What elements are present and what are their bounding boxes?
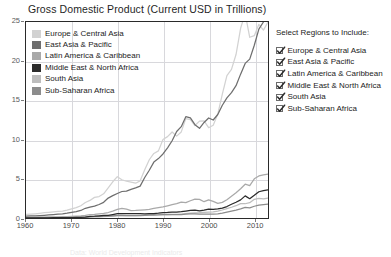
x-tick-mark	[163, 219, 164, 222]
check-icon	[276, 92, 286, 102]
region-checkbox-label: South Asia	[288, 93, 326, 101]
x-tick-mark	[209, 219, 210, 222]
legend-label: Sub-Saharan Africa	[45, 87, 114, 95]
region-checkbox-row[interactable]: Sub-Saharan Africa	[276, 103, 388, 115]
region-checkbox-label: East Asia & Pacific	[288, 58, 355, 66]
y-tick-label: 5	[0, 174, 20, 183]
checkbox-5[interactable]	[276, 94, 283, 101]
plot-frame: Europe & Central AsiaEast Asia & Pacific…	[25, 21, 269, 219]
y-tick-label: 15	[0, 95, 20, 104]
legend-item: South Asia	[32, 74, 140, 85]
region-checkbox-list[interactable]: Europe & Central AsiaEast Asia & Pacific…	[276, 45, 388, 115]
legend-item: Sub-Saharan Africa	[32, 85, 140, 96]
legend-label: Latin America & Caribbean	[45, 52, 140, 60]
checkbox-4[interactable]	[276, 82, 283, 89]
x-tick-mark	[25, 219, 26, 222]
y-tick-mark	[21, 219, 24, 220]
legend-item: Latin America & Caribbean	[32, 51, 140, 62]
region-checkbox-label: Latin America & Caribbean	[288, 70, 383, 78]
region-checkbox-row[interactable]: Latin America & Caribbean	[276, 68, 388, 80]
page-title: Gross Domestic Product (Current USD in T…	[28, 3, 266, 15]
x-tick-mark	[71, 219, 72, 222]
x-tick-mark	[117, 219, 118, 222]
checkbox-2[interactable]	[276, 59, 283, 66]
legend-swatch	[32, 75, 41, 83]
x-tick-label: 2010	[235, 221, 275, 230]
check-icon	[276, 81, 286, 91]
panel-title: Select Regions to Include:	[276, 28, 388, 37]
legend-label: Europe & Central Asia	[45, 30, 124, 38]
checkbox-6[interactable]	[276, 105, 283, 112]
x-tick-label: 2000	[189, 221, 229, 230]
check-icon	[276, 104, 286, 114]
legend-swatch	[32, 64, 41, 72]
checkbox-1[interactable]	[276, 47, 283, 54]
x-tick-label: 1980	[97, 221, 137, 230]
chart-caption: Data: World Development Indicators	[70, 249, 320, 257]
region-checkbox-row[interactable]: Europe & Central Asia	[276, 45, 388, 57]
region-checkbox-label: Sub-Saharan Africa	[288, 105, 357, 113]
y-tick-label: 20	[0, 56, 20, 65]
legend-swatch	[32, 52, 41, 60]
legend-label: South Asia	[45, 75, 83, 83]
y-tick-mark	[21, 21, 24, 22]
x-tick-label: 1990	[143, 221, 183, 230]
check-icon	[276, 57, 286, 67]
series-line	[26, 198, 268, 218]
legend-item: Europe & Central Asia	[32, 28, 140, 39]
chart-legend: Europe & Central AsiaEast Asia & Pacific…	[32, 28, 140, 96]
y-tick-label: 10	[0, 135, 20, 144]
region-checkbox-label: Middle East & North Africa	[288, 82, 381, 90]
y-tick-mark	[21, 61, 24, 62]
x-tick-label: 1970	[51, 221, 91, 230]
region-checkbox-row[interactable]: Middle East & North Africa	[276, 80, 388, 92]
chart-plot-area: Europe & Central AsiaEast Asia & Pacific…	[25, 21, 269, 219]
y-tick-mark	[21, 140, 24, 141]
region-filter-panel: Select Regions to Include: Europe & Cent…	[276, 28, 388, 115]
legend-label: East Asia & Pacific	[45, 41, 112, 49]
legend-swatch	[32, 30, 41, 38]
region-checkbox-label: Europe & Central Asia	[288, 47, 367, 55]
region-checkbox-row[interactable]: East Asia & Pacific	[276, 57, 388, 69]
checkbox-3[interactable]	[276, 70, 283, 77]
region-checkbox-row[interactable]: South Asia	[276, 91, 388, 103]
x-tick-label: 1960	[5, 221, 45, 230]
x-tick-mark	[255, 219, 256, 222]
legend-item: Middle East & North Africa	[32, 62, 140, 73]
y-tick-mark	[21, 179, 24, 180]
legend-item: East Asia & Pacific	[32, 39, 140, 50]
y-tick-mark	[21, 100, 24, 101]
legend-swatch	[32, 87, 41, 95]
legend-label: Middle East & North Africa	[45, 64, 138, 72]
legend-swatch	[32, 41, 41, 49]
y-tick-label: 25	[0, 16, 20, 25]
check-icon	[276, 69, 286, 79]
check-icon	[276, 46, 286, 56]
